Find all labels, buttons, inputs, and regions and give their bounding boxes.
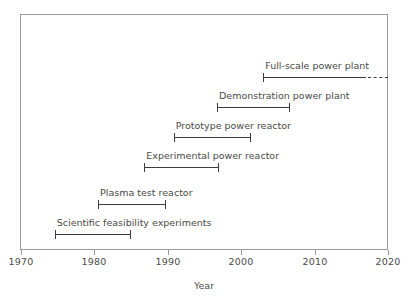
timeline-bar-label: Full-scale power plant <box>265 60 369 71</box>
timeline-bar-start-cap <box>174 133 175 142</box>
x-axis-tick-1990 <box>168 250 169 255</box>
timeline-bar-start-cap <box>98 200 99 209</box>
x-axis-tick-label-1980: 1980 <box>74 256 114 267</box>
plot-frame <box>20 14 388 250</box>
timeline-bar-label: Demonstration power plant <box>219 90 350 101</box>
x-axis-title: Year <box>0 280 408 291</box>
timeline-bar-line <box>98 204 165 205</box>
timeline-bar-line <box>144 167 217 168</box>
timeline-chart-figure: 197019801990200020102020 Full-scale powe… <box>0 0 415 305</box>
timeline-bar-line <box>55 234 131 235</box>
timeline-bar-label: Experimental power reactor <box>146 150 279 161</box>
timeline-bar-label: Scientific feasibility experiments <box>57 217 212 228</box>
timeline-bar-end-cap <box>218 163 219 172</box>
timeline-bar-end-cap <box>289 103 290 112</box>
x-axis-tick-label-2000: 2000 <box>221 256 261 267</box>
timeline-bar-end-cap <box>165 200 166 209</box>
timeline-bar-line <box>217 107 289 108</box>
timeline-bar-start-cap <box>263 73 264 82</box>
timeline-bar-line <box>263 77 366 78</box>
x-axis-tick-label-2010: 2010 <box>295 256 335 267</box>
x-axis-tick-1980 <box>94 250 95 255</box>
x-axis-tick-2000 <box>241 250 242 255</box>
x-axis-tick-label-2020: 2020 <box>368 256 408 267</box>
timeline-bar-start-cap <box>144 163 145 172</box>
timeline-bar-start-cap <box>55 230 56 239</box>
timeline-bar-dashed-continuation <box>368 77 388 78</box>
timeline-bar-start-cap <box>217 103 218 112</box>
x-axis-tick-label-1970: 1970 <box>1 256 41 267</box>
x-axis-tick-2010 <box>315 250 316 255</box>
timeline-bar-end-cap <box>250 133 251 142</box>
timeline-bar-label: Plasma test reactor <box>100 187 193 198</box>
x-axis-tick-2020 <box>388 250 389 255</box>
timeline-bar-line <box>174 137 250 138</box>
x-axis-tick-1970 <box>21 250 22 255</box>
timeline-bar-label: Prototype power reactor <box>176 120 291 131</box>
x-axis-tick-label-1990: 1990 <box>148 256 188 267</box>
timeline-bar-end-cap <box>130 230 131 239</box>
